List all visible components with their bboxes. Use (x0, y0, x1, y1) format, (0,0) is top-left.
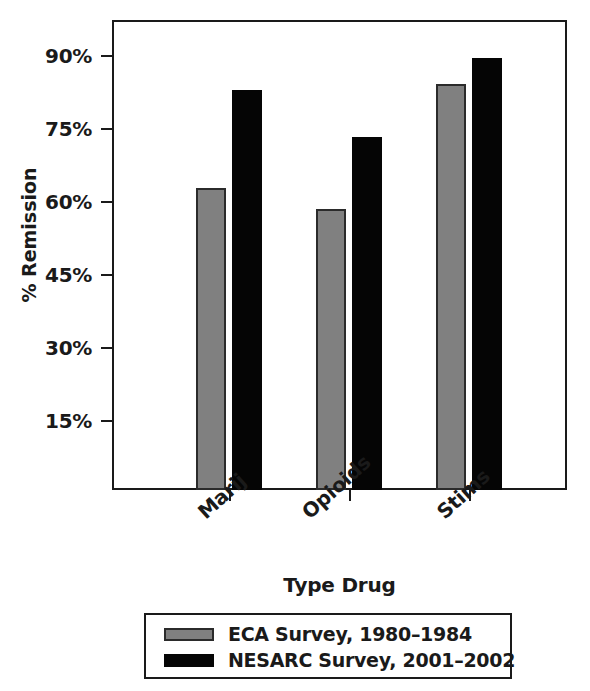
legend-entry-eca: ECA Survey, 1980–1984 (146, 621, 510, 647)
x-axis-title: Type Drug (112, 573, 567, 597)
legend-label-eca: ECA Survey, 1980–1984 (228, 623, 472, 645)
y-axis-title: % Remission (18, 155, 40, 315)
bar-nesarc-marij (232, 90, 262, 490)
y-tick-mark-30 (101, 347, 112, 349)
y-tick-label-90: 90% (30, 44, 92, 68)
chart-legend: ECA Survey, 1980–1984 NESARC Survey, 200… (144, 613, 512, 679)
bar-nesarc-opioids (352, 137, 382, 490)
y-tick-mark-45 (101, 274, 112, 276)
y-tick-mark-60 (101, 201, 112, 203)
y-tick-mark-75 (101, 128, 112, 130)
bar-nesarc-stims (472, 58, 502, 490)
y-tick-mark-15 (101, 420, 112, 422)
legend-swatch-black-icon (164, 654, 214, 667)
y-tick-label-30: 30% (30, 336, 92, 360)
y-tick-label-75: 75% (30, 117, 92, 141)
x-tick-mark-opioids (349, 490, 351, 501)
bar-eca-opioids (316, 209, 346, 490)
legend-entry-nesarc: NESARC Survey, 2001–2002 (146, 647, 510, 673)
y-tick-label-15: 15% (30, 409, 92, 433)
legend-label-nesarc: NESARC Survey, 2001–2002 (228, 649, 515, 671)
bar-chart-figure: 90% 75% 60% 45% 30% 15% % Remission Mari… (0, 0, 590, 691)
legend-swatch-gray-icon (164, 628, 214, 641)
y-tick-mark-90 (101, 55, 112, 57)
bar-eca-marij (196, 188, 226, 490)
bar-eca-stims (436, 84, 466, 490)
